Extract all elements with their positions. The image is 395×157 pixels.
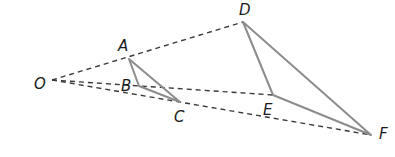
dilation-diagram: O A B C D E F (0, 0, 395, 157)
ray-o-f (52, 80, 371, 135)
label-d: D (239, 1, 251, 19)
label-o: O (34, 75, 46, 93)
ray-o-d (52, 22, 243, 80)
label-a: A (117, 37, 128, 55)
label-b: B (121, 77, 131, 95)
label-f: F (379, 125, 388, 143)
label-e: E (263, 101, 273, 119)
triangle-abc (129, 59, 180, 102)
label-c: C (174, 108, 185, 126)
dashed-rays (52, 22, 371, 135)
